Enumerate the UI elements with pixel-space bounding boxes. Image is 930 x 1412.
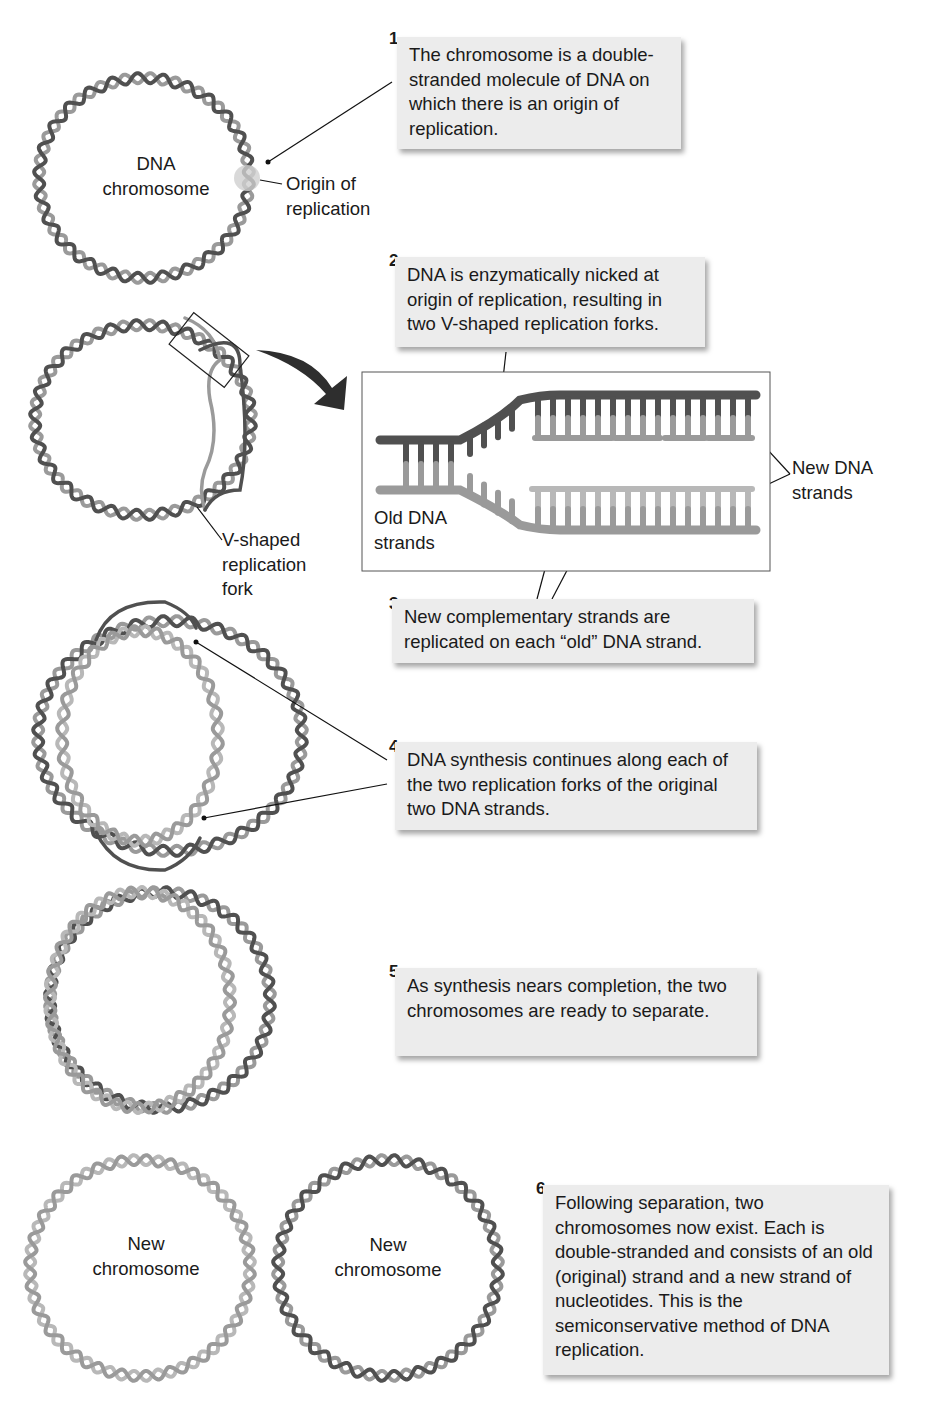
- v-shaped-fork-label: V-shaped replication fork: [222, 528, 306, 602]
- origin-of-replication-label: Origin of replication: [286, 172, 370, 221]
- step-3-box: New complementary strands are replicated…: [392, 599, 754, 663]
- step-2-box: DNA is enzymatically nicked at origin of…: [395, 257, 705, 347]
- origin-highlight: [234, 165, 260, 191]
- step-6-box: Following separation, two chromosomes no…: [543, 1185, 889, 1375]
- step-4-box: DNA synthesis continues along each of th…: [395, 742, 757, 830]
- curved-arrow-icon: [256, 350, 347, 410]
- old-dna-strands-label: Old DNA strands: [374, 506, 447, 555]
- dna-chromosome-label: DNA chromosome: [86, 152, 226, 201]
- new-chromosome-label-right: New chromosome: [318, 1233, 458, 1282]
- new-dna-strands-label: New DNA strands: [792, 456, 873, 505]
- step-5-box: As synthesis nears completion, the two c…: [395, 968, 757, 1056]
- new-chromosome-label-left: New chromosome: [76, 1232, 216, 1281]
- step-1-box: The chromosome is a double-stranded mole…: [397, 37, 681, 149]
